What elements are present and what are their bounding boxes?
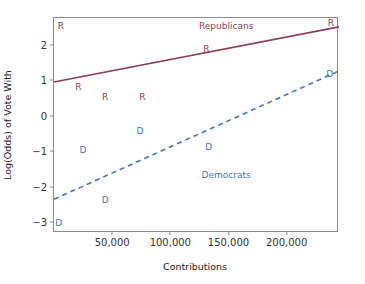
chart-figure: Log(Odds) of Vote With Contributions RRR… (0, 0, 365, 284)
x-tick-label: 200,000 (266, 235, 307, 248)
x-tick-3: 200,000 (266, 231, 307, 248)
series-annotation-republicans: Republicans (199, 21, 253, 31)
y-tick-1: 1 (41, 75, 54, 86)
y-tick-5: −3 (32, 217, 54, 228)
data-point-marker: D (55, 219, 62, 228)
y-tick-4: −2 (32, 181, 54, 192)
y-tick-0: 2 (41, 39, 54, 50)
y-tick-mark (50, 115, 54, 116)
y-tick-label: 0 (41, 110, 50, 121)
y-axis-label: Log(Odds) of Vote With (2, 70, 13, 180)
data-point-marker: R (102, 92, 108, 101)
series-annotation-democrats: Democrats (202, 170, 251, 180)
y-tick-2: 0 (41, 110, 54, 121)
x-tick-label: 50,000 (95, 235, 130, 248)
data-point-marker: R (203, 44, 209, 53)
data-point-marker: D (205, 142, 212, 151)
y-tick-label: −2 (32, 181, 50, 192)
data-point-marker: R (139, 92, 145, 101)
democrat-fit-line (54, 71, 339, 199)
y-tick-mark (50, 80, 54, 81)
y-tick-label: −1 (32, 146, 50, 157)
data-point-marker: D (80, 145, 87, 154)
data-point-marker: R (75, 82, 81, 91)
x-tick-1: 100,000 (150, 231, 191, 248)
y-tick-3: −1 (32, 146, 54, 157)
y-tick-label: −3 (32, 217, 50, 228)
republican-fit-line (54, 27, 339, 82)
data-point-marker: D (102, 196, 109, 205)
y-tick-mark (50, 151, 54, 152)
fit-lines-layer (54, 18, 339, 233)
x-tick-label: 100,000 (150, 235, 191, 248)
y-tick-label: 1 (41, 75, 50, 86)
plot-area: RRRRRRDDDDDD RepublicansDemocrats 210−1−… (53, 17, 338, 232)
x-axis-label: Contributions (163, 261, 227, 272)
data-point-marker: D (137, 127, 144, 136)
x-tick-2: 150,000 (208, 231, 249, 248)
x-tick-label: 150,000 (208, 235, 249, 248)
y-tick-mark (50, 186, 54, 187)
data-point-marker: R (328, 18, 334, 27)
y-tick-mark (50, 222, 54, 223)
data-point-marker: R (58, 21, 64, 30)
x-tick-0: 50,000 (95, 231, 130, 248)
y-tick-label: 2 (41, 39, 50, 50)
y-tick-mark (50, 44, 54, 45)
data-point-marker: D (326, 69, 333, 78)
